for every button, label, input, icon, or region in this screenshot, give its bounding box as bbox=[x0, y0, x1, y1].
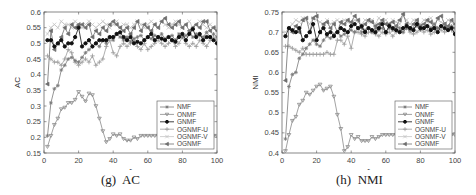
y-tick-label: 0.55 bbox=[26, 23, 41, 32]
chart-panel-nmi: 0.40.450.50.550.60.650.70.75020406080100… bbox=[238, 0, 476, 195]
legend-label: OGNMF bbox=[415, 140, 439, 147]
ac-line-chart: 0.150.20.250.30.350.40.450.50.550.602040… bbox=[0, 0, 238, 170]
chart-panel-ac: 0.150.20.250.30.350.40.450.50.550.602040… bbox=[0, 0, 238, 195]
legend-label: GNMF bbox=[415, 118, 434, 125]
x-axis-label: r bbox=[129, 166, 132, 170]
legend-label: OGNMF-V bbox=[177, 133, 208, 140]
x-tick-label: 80 bbox=[416, 156, 424, 165]
legend-label: NMF bbox=[415, 103, 429, 110]
legend-label: NMF bbox=[177, 103, 191, 110]
y-tick-label: 0.45 bbox=[264, 128, 279, 137]
legend-label: OGNMF-V bbox=[415, 133, 446, 140]
y-axis-label: NMI bbox=[251, 75, 260, 90]
legend-label: ONMF bbox=[415, 111, 434, 118]
y-tick-label: 0.4 bbox=[269, 149, 279, 158]
legend-label: ONMF bbox=[177, 111, 196, 118]
x-tick-label: 0 bbox=[280, 156, 284, 165]
nmi-line-chart: 0.40.450.50.550.60.650.70.75020406080100… bbox=[238, 0, 476, 170]
legend-label: OGNMF-U bbox=[415, 126, 446, 133]
x-tick-label: 20 bbox=[312, 156, 320, 165]
y-tick-label: 0.7 bbox=[269, 28, 279, 37]
y-tick-label: 0.75 bbox=[264, 8, 279, 17]
x-tick-label: 40 bbox=[109, 156, 117, 165]
y-tick-label: 0.6 bbox=[31, 8, 41, 17]
y-tick-label: 0.5 bbox=[269, 108, 279, 117]
x-tick-label: 100 bbox=[449, 156, 462, 165]
legend-label: OGNMF bbox=[177, 140, 201, 147]
y-tick-label: 0.15 bbox=[26, 149, 41, 158]
y-axis-label: AC bbox=[13, 77, 22, 88]
legend-label: OGNMF-U bbox=[177, 126, 208, 133]
y-tick-label: 0.3 bbox=[31, 102, 41, 111]
y-tick-label: 0.2 bbox=[31, 133, 41, 142]
y-tick-label: 0.4 bbox=[31, 70, 41, 79]
y-tick-label: 0.35 bbox=[26, 86, 41, 95]
legend: NMFONMFGNMFOGNMF-UOGNMF-VOGNMF bbox=[395, 101, 452, 149]
y-tick-label: 0.25 bbox=[26, 117, 41, 126]
legend: NMFONMFGNMFOGNMF-UOGNMF-VOGNMF bbox=[157, 101, 214, 149]
x-tick-label: 0 bbox=[42, 156, 46, 165]
y-tick-label: 0.6 bbox=[269, 68, 279, 77]
x-tick-label: 20 bbox=[74, 156, 82, 165]
y-tick-label: 0.5 bbox=[31, 39, 41, 48]
y-tick-label: 0.55 bbox=[264, 88, 279, 97]
x-tick-label: 80 bbox=[178, 156, 186, 165]
y-tick-label: 0.45 bbox=[26, 55, 41, 64]
x-tick-label: 40 bbox=[347, 156, 355, 165]
x-tick-label: 100 bbox=[211, 156, 224, 165]
x-tick-label: 60 bbox=[144, 156, 152, 165]
legend-label: GNMF bbox=[177, 118, 196, 125]
x-tick-label: 60 bbox=[382, 156, 390, 165]
y-tick-label: 0.65 bbox=[264, 48, 279, 57]
x-axis-label: r bbox=[367, 166, 370, 170]
caption-ac: (g) AC bbox=[101, 172, 140, 188]
caption-nmi: (h) NMI bbox=[336, 172, 383, 188]
